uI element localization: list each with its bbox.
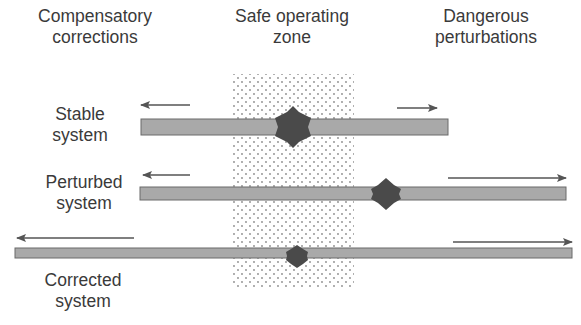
row-label-line2: system: [28, 193, 140, 214]
row-label-line1: Corrected: [28, 270, 138, 291]
row-label-line1: Perturbed: [28, 172, 140, 193]
row-label-line2: system: [30, 125, 130, 146]
row-label-stable-system: Stable system: [30, 104, 130, 146]
row-label-corrected-system: Corrected system: [28, 270, 138, 312]
stable-system-row: [141, 105, 448, 148]
row-label-line1: Stable: [30, 104, 130, 125]
perturbed-state-diamond-icon: [371, 178, 401, 210]
row-label-line2: system: [28, 291, 138, 312]
row-label-perturbed-system: Perturbed system: [28, 172, 140, 214]
perturbed-bar: [140, 187, 566, 200]
